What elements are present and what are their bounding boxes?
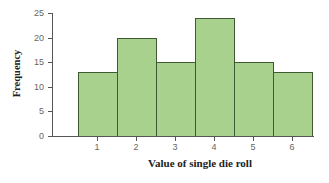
y-tick-label: 25 (18, 8, 44, 18)
y-axis (52, 13, 53, 136)
x-tick-label: 1 (87, 142, 107, 152)
y-tick-label: 15 (18, 57, 44, 67)
bar-1 (78, 72, 118, 137)
x-tick-label: 4 (204, 142, 224, 152)
x-tick (253, 137, 254, 141)
y-tick-label: 10 (18, 82, 44, 92)
y-tick-label: 0 (18, 131, 44, 141)
x-tick (175, 137, 176, 141)
bar-3 (156, 62, 196, 137)
x-tick (97, 137, 98, 141)
x-tick (136, 137, 137, 141)
x-axis-label: Value of single die roll (100, 157, 300, 169)
bar-2 (117, 38, 157, 137)
x-tick (292, 137, 293, 141)
x-tick-label: 5 (243, 142, 263, 152)
y-tick-label: 5 (18, 106, 44, 116)
bar-6 (273, 72, 313, 137)
histogram-chart: Frequency 0 5 10 15 20 25 1 2 3 4 5 6 Va… (0, 0, 329, 183)
x-tick-label: 2 (126, 142, 146, 152)
x-tick-label: 3 (165, 142, 185, 152)
x-tick (214, 137, 215, 141)
y-tick-label: 20 (18, 33, 44, 43)
y-axis-label: Frequency (11, 44, 22, 104)
x-axis (52, 136, 314, 137)
x-tick-label: 6 (282, 142, 302, 152)
bar-5 (234, 62, 274, 137)
bar-4 (195, 18, 235, 137)
